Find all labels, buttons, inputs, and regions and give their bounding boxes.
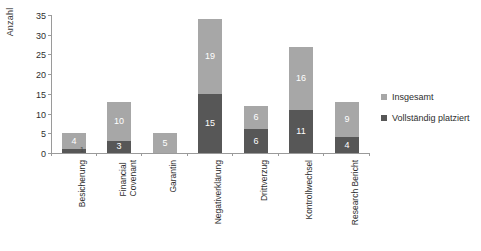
legend-swatch-icon-vollstaendig-platziert xyxy=(381,115,387,121)
x-tick-mark-2 xyxy=(141,153,142,156)
x-category-label-financial-covenant-line1: Financial xyxy=(118,162,128,196)
bar-drittverzug: 6 6 xyxy=(244,106,268,153)
y-tick-mark-5 xyxy=(48,133,51,134)
stacked-bar-chart: Anzahl 0 5 10 15 20 25 30 35 4 1 10 3 xyxy=(0,0,481,251)
bar-label-placed-research-bericht: 4 xyxy=(344,141,349,150)
bar-label-placed-kontrollwechsel: 11 xyxy=(296,127,305,136)
bar-segment-placed-besicherung xyxy=(62,149,86,153)
y-tick-label-0: 0 xyxy=(18,150,46,159)
bar-segment-placed-kontrollwechsel: 11 xyxy=(289,110,313,153)
chart-legend: Insgesamt Vollständig platziert xyxy=(381,92,470,134)
bar-label-total-kontrollwechsel: 16 xyxy=(296,74,306,83)
bar-segment-total-research-bericht: 9 xyxy=(335,102,359,138)
y-tick-label-35: 35 xyxy=(18,12,46,21)
bar-label-total-besicherung: 4 xyxy=(71,137,76,146)
legend-item-vollstaendig-platziert: Vollständig platziert xyxy=(381,113,470,123)
bar-segment-total-kontrollwechsel: 16 xyxy=(289,47,313,110)
legend-swatch-icon-insgesamt xyxy=(381,94,387,100)
x-category-label-negativerklaerung: Negativerklärung xyxy=(213,160,223,224)
x-tick-mark-0 xyxy=(51,153,52,156)
x-category-label-drittverzug: Drittverzug xyxy=(259,160,269,201)
bar-besicherung: 4 1 xyxy=(62,133,86,153)
bar-label-total-research-bericht: 9 xyxy=(344,115,349,124)
y-tick-label-20: 20 xyxy=(18,71,46,80)
y-tick-label-30: 30 xyxy=(18,32,46,41)
bar-label-total-financial-covenant: 10 xyxy=(114,117,124,126)
bar-garantin: 5 xyxy=(153,133,177,153)
y-tick-label-15: 15 xyxy=(18,91,46,100)
x-tick-mark-3 xyxy=(187,153,188,156)
bar-segment-placed-negativerklaerung: 15 xyxy=(198,94,222,153)
legend-label-vollstaendig-platziert: Vollständig platziert xyxy=(392,113,470,123)
x-category-label-financial-covenant-line2: Covenant xyxy=(128,160,138,196)
bar-label-total-negativerklaerung: 19 xyxy=(205,52,215,61)
x-tick-mark-1 xyxy=(96,153,97,156)
x-category-label-financial-covenant: FinancialCovenant xyxy=(118,160,138,196)
x-tick-mark-6 xyxy=(323,153,324,156)
y-tick-label-5: 5 xyxy=(18,130,46,139)
bar-label-placed-drittverzug: 6 xyxy=(253,137,258,146)
bar-segment-total-besicherung: 4 xyxy=(62,133,86,149)
x-tick-mark-7 xyxy=(369,153,370,156)
bar-segment-placed-research-bericht: 4 xyxy=(335,137,359,153)
y-axis-title: Anzahl xyxy=(5,0,15,52)
y-tick-mark-25 xyxy=(48,54,51,55)
x-category-label-research-bericht: Research Bericht xyxy=(350,160,360,225)
bar-segment-total-drittverzug: 6 xyxy=(244,106,268,130)
bar-kontrollwechsel: 16 11 xyxy=(289,47,313,154)
y-tick-label-10: 10 xyxy=(18,111,46,120)
x-tick-mark-4 xyxy=(232,153,233,156)
bar-label-placed-financial-covenant: 3 xyxy=(116,142,121,151)
y-axis-line xyxy=(51,15,52,154)
y-tick-mark-15 xyxy=(48,94,51,95)
bar-segment-total-negativerklaerung: 19 xyxy=(198,19,222,94)
bar-negativerklaerung: 19 15 xyxy=(198,19,222,153)
y-tick-mark-20 xyxy=(48,74,51,75)
y-tick-mark-10 xyxy=(48,114,51,115)
bar-segment-total-garantin: 5 xyxy=(153,133,177,153)
x-category-label-besicherung: Besicherung xyxy=(77,160,87,207)
legend-label-insgesamt: Insgesamt xyxy=(392,92,434,102)
bar-label-placed-negativerklaerung: 15 xyxy=(205,119,215,128)
bar-segment-total-financial-covenant: 10 xyxy=(107,102,131,141)
bar-label-total-garantin: 5 xyxy=(162,139,167,148)
x-tick-mark-5 xyxy=(278,153,279,156)
y-tick-mark-30 xyxy=(48,35,51,36)
x-category-label-garantin: Garantin xyxy=(168,160,178,193)
bar-financial-covenant: 10 3 xyxy=(107,102,131,153)
bar-segment-placed-drittverzug: 6 xyxy=(244,129,268,153)
y-tick-mark-35 xyxy=(48,15,51,16)
legend-item-insgesamt: Insgesamt xyxy=(381,92,470,102)
bar-label-total-drittverzug: 6 xyxy=(253,113,258,122)
bar-research-bericht: 9 4 xyxy=(335,102,359,153)
x-category-label-kontrollwechsel: Kontrollwechsel xyxy=(304,160,314,220)
bar-segment-placed-financial-covenant: 3 xyxy=(107,141,131,153)
y-tick-label-25: 25 xyxy=(18,51,46,60)
